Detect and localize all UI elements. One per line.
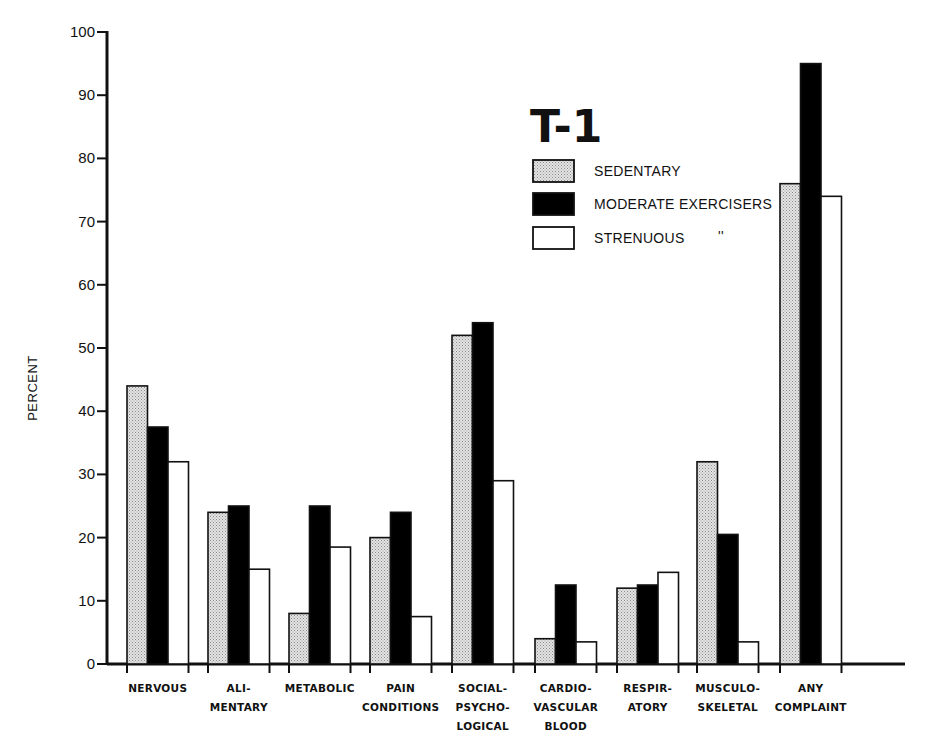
y-tick-label: 10 [78,592,95,609]
bar [473,323,494,664]
bar [556,585,577,664]
bar-group [127,386,189,664]
category-label: CONDITIONS [362,701,439,713]
bar-group [617,572,679,664]
category-labels: NERVOUSALI-MENTARYMETABOLICPAINCONDITION… [128,682,847,732]
category-label: RESPIR- [623,682,672,694]
category-label: SKELETAL [698,701,758,713]
category-label: LOGICAL [457,720,509,732]
category-label: SOCIAL- [458,682,507,694]
bar [289,613,310,664]
category-label: ANY [798,682,824,694]
bar [370,538,391,664]
legend-label: MODERATE EXERCISERS [594,196,772,212]
x-axis [107,664,905,673]
y-tick-label: 60 [78,276,95,293]
bar [493,481,514,664]
bars [127,64,842,664]
bar [576,642,597,664]
bar [638,585,659,664]
bar [330,547,351,664]
legend-label: STRENUOUS [594,230,685,246]
bar [718,534,739,664]
bar [127,386,148,664]
bar [617,588,638,664]
category-label: NERVOUS [128,682,187,694]
bar [780,184,801,664]
bar [738,642,759,664]
bar-group [780,64,842,664]
bar-chart: 0102030405060708090100 NERVOUSALI-MENTAR… [0,0,925,744]
bar [310,506,331,664]
category-label: PSYCHO- [455,701,510,713]
category-label: PAIN [386,682,415,694]
bar [821,196,842,664]
bar [697,462,718,664]
y-axis-label: PERCENT [25,355,40,421]
bar [801,64,822,664]
category-label: VASCULAR [533,701,598,713]
y-tick-label: 0 [87,655,95,672]
bar [658,572,679,664]
y-tick-label: 30 [78,465,95,482]
bar [249,569,270,664]
bar [208,512,229,664]
bar-group [452,323,514,664]
legend-swatch [533,193,574,215]
chart-title: T-1 [530,101,602,152]
y-tick-label: 20 [78,529,95,546]
bar [229,506,250,664]
bar [148,427,169,664]
bar-group [370,512,432,664]
y-axis: 0102030405060708090100 [70,23,107,672]
legend-swatch [533,160,574,182]
legend: T-1 SEDENTARYMODERATE EXERCISERSSTRENUOU… [530,101,772,249]
y-tick-label: 90 [78,86,95,103]
y-tick-label: 80 [78,149,95,166]
y-tick-label: 100 [70,23,95,40]
bar-group [208,506,270,664]
bar [168,462,189,664]
ditto-mark: '' [718,228,724,244]
y-tick-label: 50 [78,339,95,356]
y-tick-label: 40 [78,402,95,419]
bar-group [289,506,351,664]
category-label: COMPLAINT [775,701,848,713]
bar-group [535,585,597,664]
category-label: METABOLIC [285,682,355,694]
legend-swatch [533,227,574,249]
legend-label: SEDENTARY [594,163,681,179]
category-label: CARDIO- [540,682,592,694]
category-label: MENTARY [210,701,268,713]
bar-group [697,462,759,664]
bar [391,512,412,664]
category-label: ALI- [227,682,251,694]
y-tick-label: 70 [78,213,95,230]
bar [411,617,432,664]
category-label: ATORY [628,701,668,713]
bar [535,639,556,664]
category-label: MUSCULO- [695,682,760,694]
bar [452,335,473,664]
category-label: BLOOD [545,720,587,732]
